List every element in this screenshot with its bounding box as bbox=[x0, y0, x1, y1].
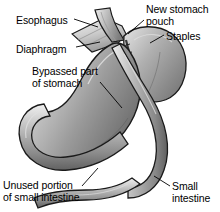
label-unused-portion-line1: Unused portion bbox=[3, 179, 73, 191]
label-esophagus: Esophagus bbox=[16, 14, 68, 26]
label-bypassed-part-line2: of stomach bbox=[32, 77, 82, 89]
label-new-stomach-pouch-line2: pouch bbox=[146, 15, 174, 27]
label-small-intestine-line2: intestine bbox=[172, 192, 210, 204]
gastric-bypass-diagram: Esophagus Diaphragm Bypassed part of sto… bbox=[0, 0, 220, 212]
leader-unused-portion bbox=[82, 168, 98, 186]
label-unused-portion-line2: of small intestine bbox=[3, 191, 79, 203]
label-bypassed-part-line1: Bypassed part bbox=[32, 65, 98, 77]
label-new-stomach-pouch-line1: New stomach bbox=[146, 3, 209, 15]
label-staples: Staples bbox=[166, 30, 200, 42]
label-small-intestine-line1: Small bbox=[172, 180, 198, 192]
label-diaphragm: Diaphragm bbox=[16, 43, 66, 55]
